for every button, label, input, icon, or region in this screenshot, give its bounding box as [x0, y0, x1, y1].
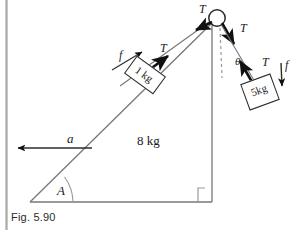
label-mass-wedge: 8 kg [137, 133, 160, 149]
label-friction-hanging: f [285, 59, 288, 71]
label-tension-incline: T [160, 42, 167, 54]
label-tension-top-right: T [240, 22, 247, 34]
dashed-vertical-reference-line [220, 28, 222, 78]
figure-caption: Fig. 5.90 [11, 211, 56, 223]
friction-arrow-hanging [281, 63, 282, 86]
diagram-canvas [0, 0, 298, 230]
right-angle-marker-icon [198, 188, 205, 202]
tension-arrow-hanging-block [240, 61, 252, 82]
label-angle-theta: θ [235, 56, 240, 67]
angle-arc-icon [65, 177, 74, 202]
physics-figure: 1 kg 5kg T T T T f f θ a A 8 kg Fig. 5.9… [0, 0, 298, 230]
label-tension-top-left: T [199, 3, 206, 15]
string-hanging [222, 26, 255, 82]
label-acceleration: a [67, 132, 74, 145]
label-tension-hanging: T [262, 56, 269, 68]
label-angle-A: A [57, 184, 65, 197]
tension-arrow-top-right [222, 23, 234, 44]
label-friction-incline: f [119, 49, 122, 61]
